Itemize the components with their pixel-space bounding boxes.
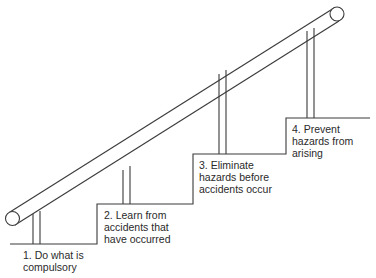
step-label-2: 2. Learn from accidents that have occurr… [104,209,171,245]
step-label-3: 3. Eliminate hazards before accidents oc… [199,159,272,195]
handrail [6,7,345,226]
step-4-line-1: 4. Prevent [292,123,353,135]
step-label-4: 4. Prevent hazards from arising [292,123,353,159]
step-3-line-3: accidents occur [199,183,272,195]
post-3 [219,70,226,154]
handrail-end-left [6,212,20,226]
post-1 [33,211,40,244]
step-4-line-2: hazards from [292,135,353,147]
step-label-1: 1. Do what is compulsory [23,249,84,273]
step-3-line-1: 3. Eliminate [199,159,272,171]
step-2-line-1: 2. Learn from [104,209,171,221]
post-4 [307,28,314,118]
step-1-line-2: compulsory [23,261,84,273]
step-2-line-3: have occurred [104,233,171,245]
post-2 [123,166,130,204]
step-2-line-2: accidents that [104,221,171,233]
handrail-end-right [330,7,344,21]
step-3-line-2: hazards before [199,171,272,183]
step-4-line-3: arising [292,147,353,159]
step-1-line-1: 1. Do what is [23,249,84,261]
staircase-diagram: 1. Do what is compulsory 2. Learn from a… [0,0,376,278]
